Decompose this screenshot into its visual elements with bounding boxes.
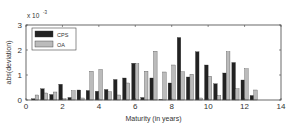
bar-oa [154,51,158,100]
legend-swatch-cps [35,31,53,37]
bar-cps [132,63,136,100]
bar-oa [72,91,76,100]
bar-cps [95,91,99,100]
bar-cps [50,95,54,101]
bar-oa [99,70,103,101]
bar-cps [168,83,172,100]
y-tick-label: 1 [18,71,23,80]
bar-oa [172,65,176,100]
x-tick-label: 6 [133,102,138,111]
legend-label-cps: CPS [57,32,69,38]
bar-cps [195,52,199,100]
bar-oa [35,95,39,100]
bar-oa [144,71,148,100]
x-tick-label: 4 [97,102,102,111]
bar-cps [232,63,236,101]
y-axis-label: abs(deviation) [5,41,13,85]
x-tick-label: 14 [277,102,286,111]
bar-cps [214,84,218,100]
bar-cps [104,90,108,101]
y-tick-label: 2 [18,46,23,55]
bar-cps [150,78,154,100]
bar-cps [205,65,209,100]
bar-oa [163,72,167,100]
bar-cps [113,80,117,101]
bar-oa [190,74,194,100]
x-tick-label: 2 [60,102,65,111]
y-tick-label: 0 [18,96,23,105]
y-tick-label: 3 [18,21,23,30]
y-scale-label: x 10 [27,12,40,19]
bar-oa [226,52,230,100]
legend-swatch-oa [35,41,53,47]
chart-canvas: 024681012140123x 10-3Maturity (in years)… [0,0,289,126]
bar-oa [208,76,212,100]
bar-oa [181,72,185,100]
bar-cps [123,78,127,100]
y-scale-exponent: -3 [43,10,47,15]
x-tick-label: 0 [24,102,29,111]
bar-cps [241,80,245,100]
bar-cps [59,84,63,100]
bar-cps [77,90,81,100]
bar-oa [44,93,48,100]
x-tick-label: 12 [240,102,249,111]
x-tick-label: 10 [204,102,213,111]
bar-oa [235,89,239,100]
bar-cps [250,96,254,101]
x-axis-label: Maturity (in years) [125,115,181,123]
bar-cps [186,77,190,100]
bar-oa [90,71,94,100]
bar-cps [223,73,227,100]
bar-chart: 024681012140123x 10-3Maturity (in years)… [0,0,289,126]
bar-oa [254,90,258,100]
bar-oa [117,95,121,100]
bar-oa [126,83,130,100]
bar-oa [135,64,139,100]
legend-label-oa: OA [57,42,65,48]
bar-oa [108,92,112,100]
bar-oa [245,69,249,100]
bar-cps [41,89,45,100]
bar-cps [86,91,90,101]
bar-oa [217,96,221,101]
bar-cps [177,38,181,101]
bar-oa [53,92,57,100]
x-tick-label: 8 [169,102,174,111]
